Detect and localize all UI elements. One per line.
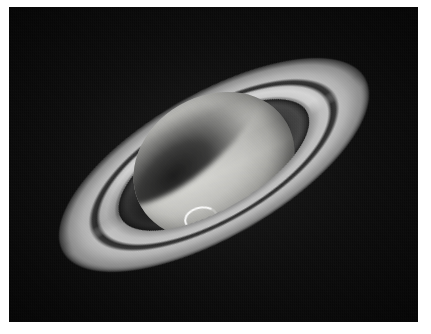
cassini-division-front-arc [26, 15, 401, 315]
saturn-system [9, 7, 418, 322]
photo-frame: Saturn [0, 0, 431, 334]
sky-plate [9, 7, 418, 322]
